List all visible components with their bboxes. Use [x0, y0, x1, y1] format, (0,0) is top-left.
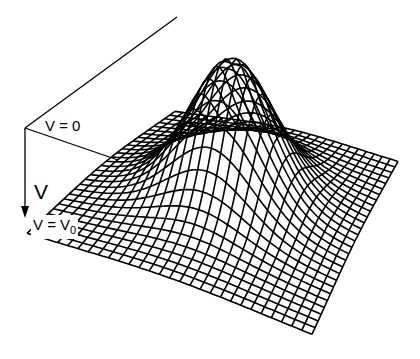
upper-reference-line [25, 17, 177, 128]
surface-figure [0, 0, 420, 359]
wireframe-mesh [27, 58, 398, 334]
arrow-head-icon [21, 206, 29, 218]
label-v-equals-v0: V = V0 [31, 215, 78, 239]
label-v-equals-v0-base: V = V [33, 216, 70, 233]
label-v-zero: V = 0 [45, 118, 80, 133]
label-v-equals-v0-subscript: 0 [70, 224, 76, 236]
label-v-axis: V [34, 181, 48, 202]
